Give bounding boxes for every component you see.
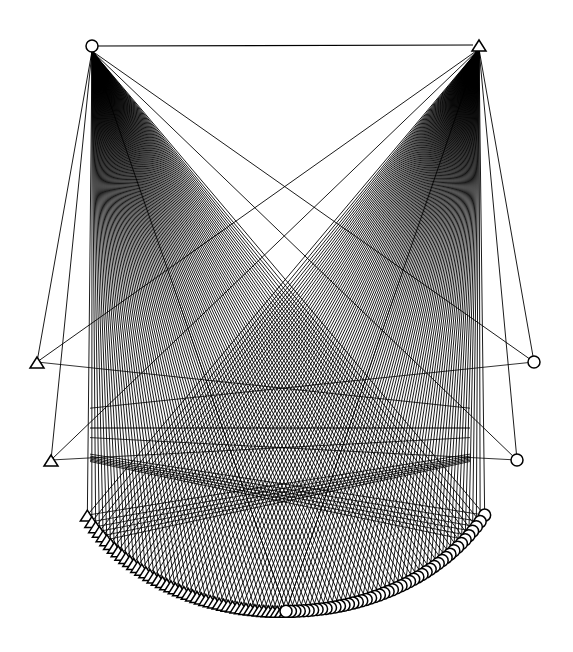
edge-left-hub-to-right-node — [92, 51, 335, 607]
edge-left-hub-to-left-node — [37, 51, 92, 362]
edge-right-hub-to-right-node — [479, 49, 517, 460]
right-node-circle-icon[interactable] — [528, 356, 540, 368]
network-diagram — [0, 0, 573, 652]
hub-edge — [98, 45, 473, 46]
edge-right-hub-to-left-node — [259, 49, 479, 610]
hub-right-triangle-icon[interactable] — [472, 40, 486, 51]
diagram-svg — [0, 0, 573, 652]
right-node-circle-icon[interactable] — [511, 454, 523, 466]
edge-left-hub-to-left-node — [87, 51, 92, 515]
edge-left-hub-to-left-node — [51, 51, 92, 460]
edge-left-hub-to-right-node — [92, 51, 344, 605]
left-node-triangle-icon[interactable] — [44, 455, 58, 466]
edge-right-hub-to-right-node — [479, 49, 534, 362]
edge-right-hub-to-right-node — [308, 49, 479, 610]
edge-left-hub-to-right-node — [92, 51, 454, 551]
edge-left-hub-to-left-node — [92, 51, 264, 610]
edges-layer — [37, 45, 534, 611]
right-node-circle-icon[interactable] — [280, 605, 292, 617]
hub-left-circle-icon[interactable] — [86, 40, 98, 52]
